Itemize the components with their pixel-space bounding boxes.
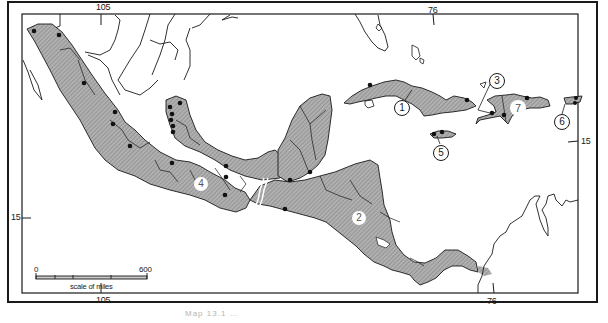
- latitude-label-left-15: 15: [11, 213, 21, 222]
- longitude-label-top-76: 76: [428, 6, 438, 15]
- region-callout-7: 7: [510, 100, 526, 116]
- region-callout-2: 2: [352, 211, 366, 225]
- latitude-label-right-15: 15: [581, 137, 591, 146]
- map-figure: 105 76 105 76 15 15 0 600 scale of miles…: [0, 0, 608, 323]
- region-callout-6: 6: [554, 114, 570, 130]
- region-callout-4: 4: [194, 177, 208, 191]
- scale-start-label: 0: [34, 265, 38, 274]
- longitude-label-bottom-76: 76: [487, 297, 497, 306]
- region-callout-1: 1: [394, 100, 410, 116]
- longitude-label-top-105: 105: [96, 3, 110, 12]
- region-callout-5: 5: [433, 145, 449, 161]
- map-canvas: [0, 0, 608, 323]
- map-caption: Map 13.1 …: [185, 309, 239, 318]
- longitude-label-bottom-105: 105: [96, 296, 110, 305]
- scale-end-label: 600: [139, 265, 152, 274]
- region-callout-3: 3: [489, 73, 505, 89]
- scale-unit-label: scale of miles: [70, 282, 113, 291]
